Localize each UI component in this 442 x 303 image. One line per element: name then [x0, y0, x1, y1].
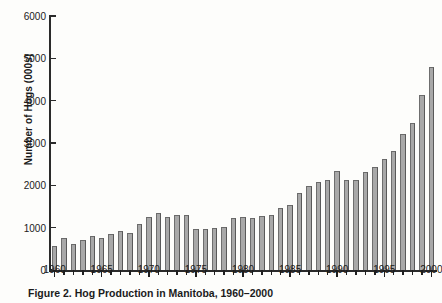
bar: [297, 193, 302, 270]
bar: [400, 134, 405, 270]
bar: [306, 186, 311, 270]
x-axis-tick-label: 1990: [326, 264, 348, 275]
x-axis-tick-label: 1985: [279, 264, 301, 275]
y-axis-tick-label: 4000: [2, 95, 46, 106]
bar: [250, 218, 255, 270]
x-axis-tick-label: 1980: [232, 264, 254, 275]
x-axis-tick-label: 2000: [420, 264, 442, 275]
bar: [353, 180, 358, 270]
y-axis-tick-label: 3000: [2, 138, 46, 149]
bar: [334, 171, 339, 270]
bar: [259, 216, 264, 270]
y-axis-tick-label-group: 0100020003000400050006000: [0, 0, 46, 303]
x-axis-tick-label: 1965: [91, 264, 113, 275]
y-axis-tick-label: 5000: [2, 53, 46, 64]
bar: [344, 180, 349, 270]
bar: [269, 215, 274, 270]
bar-series: [49, 16, 437, 270]
bar: [146, 217, 151, 270]
x-axis-tick-label: 1975: [185, 264, 207, 275]
figure-caption: Figure 2. Hog Production in Manitoba, 19…: [28, 287, 273, 299]
bar: [174, 215, 179, 270]
bar: [240, 217, 245, 270]
bar: [156, 213, 161, 270]
bar: [184, 215, 189, 270]
x-axis-tick-label-group: 196019651970197519801985199019952000: [49, 264, 441, 280]
x-axis-tick-label: 1960: [44, 264, 66, 275]
bar: [410, 123, 415, 270]
y-axis-tick-label: 0: [2, 265, 46, 276]
bar: [316, 182, 321, 270]
y-axis-tick-label: 6000: [2, 11, 46, 22]
bar: [165, 217, 170, 270]
bar: [372, 167, 377, 270]
bar: [391, 151, 396, 270]
bar: [287, 205, 292, 270]
x-axis-tick-label: 1995: [373, 264, 395, 275]
bar: [231, 218, 236, 270]
bar: [278, 208, 283, 270]
figure-container: Number of Hogs (000s) 010002000300040005…: [0, 0, 442, 303]
bar: [325, 180, 330, 270]
bar: [419, 95, 424, 270]
y-axis-tick-label: 2000: [2, 180, 46, 191]
bar: [429, 67, 434, 270]
y-axis-tick-label: 1000: [2, 222, 46, 233]
bar: [382, 159, 387, 270]
x-axis-tick-label: 1970: [138, 264, 160, 275]
bar: [363, 172, 368, 270]
plot-area: [49, 16, 437, 270]
